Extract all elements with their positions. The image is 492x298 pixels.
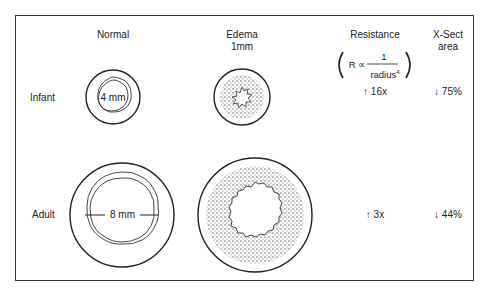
- formula-denominator-base: radius: [370, 69, 396, 80]
- column-header-resistance: Resistance: [345, 29, 405, 41]
- formula-denominator: radius4: [365, 66, 405, 81]
- column-header-xsect: X-Sect: [428, 29, 468, 41]
- column-header-edema-thickness: 1mm: [222, 41, 262, 53]
- adult-area-change: ↓ 44%: [428, 209, 468, 221]
- adult-diameter-label: 8 mm: [105, 209, 140, 221]
- row-label-adult: Adult: [32, 209, 62, 221]
- formula-exponent: 4: [396, 69, 399, 75]
- infant-edema-airway: [214, 69, 270, 125]
- adult-resistance-change: ↑ 3x: [355, 209, 395, 221]
- column-header-area: area: [428, 41, 468, 53]
- row-label-infant: Infant: [30, 92, 60, 104]
- infant-resistance-change: ↑ 16x: [355, 86, 395, 98]
- adult-edema-airway: [198, 158, 312, 272]
- column-header-normal: Normal: [93, 29, 133, 41]
- formula-numerator: 1: [372, 51, 396, 63]
- column-header-edema: Edema: [222, 29, 262, 41]
- infant-diameter-label: 4 mm: [98, 92, 128, 104]
- infant-area-change: ↓ 75%: [428, 86, 468, 98]
